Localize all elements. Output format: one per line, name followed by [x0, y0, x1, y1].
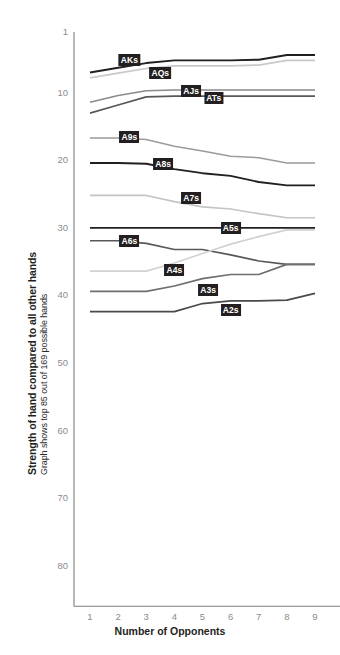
series-label-ats: ATs — [204, 92, 223, 104]
series-label-a7s: A7s — [181, 192, 201, 204]
y-tick-50: 50 — [42, 357, 68, 368]
series-label-a2s: A2s — [221, 304, 241, 316]
x-tick-4: 4 — [164, 611, 184, 622]
x-tick-5: 5 — [193, 611, 213, 622]
series-label-ajs: AJs — [181, 85, 201, 97]
y-tick-10: 10 — [42, 87, 68, 98]
series-label-a3s: A3s — [198, 284, 218, 296]
x-tick-9: 9 — [305, 611, 325, 622]
series-label-a5s: A5s — [221, 222, 241, 234]
series-line-a2s — [90, 293, 315, 311]
y-tick-1: 1 — [42, 26, 68, 37]
y-tick-40: 40 — [42, 289, 68, 300]
x-tick-1: 1 — [80, 611, 100, 622]
y-tick-70: 70 — [42, 492, 68, 503]
x-tick-2: 2 — [108, 611, 128, 622]
series-label-a4s: A4s — [164, 264, 184, 276]
series-label-aks: AKs — [119, 54, 140, 66]
plot-area — [0, 0, 340, 655]
y-tick-80: 80 — [42, 560, 68, 571]
y-tick-30: 30 — [42, 222, 68, 233]
x-tick-3: 3 — [136, 611, 156, 622]
y-tick-20: 20 — [42, 154, 68, 165]
series-label-a8s: A8s — [153, 158, 173, 170]
series-line-a7s — [90, 195, 315, 217]
x-tick-7: 7 — [249, 611, 269, 622]
series-label-a9s: A9s — [119, 131, 139, 143]
series-line-ats — [90, 96, 315, 113]
x-tick-8: 8 — [277, 611, 297, 622]
series-label-aqs: AQs — [149, 67, 171, 79]
series-line-a8s — [90, 163, 315, 185]
poker-hand-strength-chart: Strength of hand compared to all other h… — [0, 0, 340, 655]
x-axis-title: Number of Opponents — [0, 625, 340, 637]
x-tick-6: 6 — [221, 611, 241, 622]
series-label-a6s: A6s — [119, 235, 139, 247]
y-tick-60: 60 — [42, 425, 68, 436]
axis-spine — [74, 32, 340, 606]
